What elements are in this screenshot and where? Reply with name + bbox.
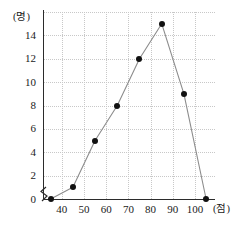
x-axis-line xyxy=(43,199,215,200)
y-tick-label: 4 xyxy=(12,147,36,158)
gridline-vertical xyxy=(128,12,129,199)
y-axis-unit-label: (명) xyxy=(13,11,30,22)
y-axis-line xyxy=(43,10,44,200)
y-tick-label: 10 xyxy=(12,77,36,88)
data-point-marker xyxy=(181,91,187,97)
y-tick-label: 14 xyxy=(12,30,36,41)
frequency-polygon-chart: (명) (점) 02468101214 405060708090100 xyxy=(0,0,240,226)
gridline-vertical xyxy=(151,12,152,199)
gridline-horizontal xyxy=(44,129,215,130)
gridline-horizontal xyxy=(44,82,215,83)
gridline-horizontal xyxy=(44,152,215,153)
y-tick-label: 6 xyxy=(12,123,36,134)
gridline-horizontal xyxy=(44,176,215,177)
y-tick-label: 8 xyxy=(12,100,36,111)
gridline-vertical xyxy=(106,12,107,199)
gridline-vertical xyxy=(173,12,174,199)
gridline-vertical xyxy=(195,12,196,199)
x-axis-unit-label: (점) xyxy=(213,203,230,214)
y-tick-label: 2 xyxy=(12,170,36,181)
gridline-horizontal xyxy=(44,59,215,60)
plot-area xyxy=(44,12,215,199)
y-tick-label: 12 xyxy=(12,53,36,64)
gridline-horizontal xyxy=(44,35,215,36)
data-point-marker xyxy=(159,21,165,27)
data-point-marker xyxy=(48,196,54,202)
data-point-marker xyxy=(114,103,120,109)
gridline-vertical xyxy=(84,12,85,199)
gridline-horizontal xyxy=(44,12,215,13)
x-tick-label: 100 xyxy=(182,204,208,215)
y-tick-label: 0 xyxy=(12,194,36,205)
data-point-marker xyxy=(92,138,98,144)
gridline-vertical xyxy=(62,12,63,199)
gridline-horizontal xyxy=(44,106,215,107)
data-point-marker xyxy=(203,196,209,202)
